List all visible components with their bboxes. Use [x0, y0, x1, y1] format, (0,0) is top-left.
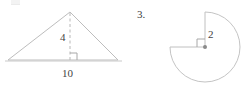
figures-svg: [0, 0, 247, 91]
sector-figure: [170, 12, 240, 82]
problem-number-label: 3.: [137, 9, 145, 20]
right-angle-icon: [70, 53, 77, 60]
sector-radius-label: 2: [208, 29, 214, 40]
triangle-base-label: 10: [62, 68, 73, 79]
worksheet-canvas: 4 10 3. 2: [0, 0, 247, 91]
triangle-height-label: 4: [60, 32, 66, 43]
center-dot-icon: [203, 45, 207, 49]
